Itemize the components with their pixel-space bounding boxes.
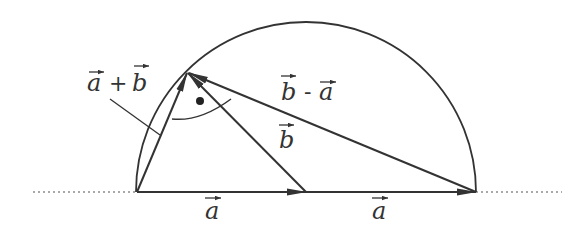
label-b-minus-a: b - a: [281, 76, 336, 106]
label-b: b: [279, 125, 294, 154]
svg-text:b: b: [279, 126, 294, 154]
svg-text:a: a: [87, 69, 101, 97]
svg-text:a: a: [372, 197, 386, 225]
svg-text:a: a: [205, 197, 219, 225]
svg-text:+: +: [109, 71, 127, 96]
svg-text:b: b: [281, 78, 296, 106]
svg-text:b: b: [132, 69, 147, 97]
vector-diagram: a + b b - a b a a: [0, 0, 586, 235]
svg-text:-: -: [304, 79, 311, 104]
label-a-right: a: [372, 197, 388, 225]
label-a-left: a: [205, 197, 221, 225]
label-a-plus-b: a + b: [87, 66, 149, 97]
right-angle-dot: [196, 97, 204, 105]
semicircle-arc: [136, 22, 476, 192]
